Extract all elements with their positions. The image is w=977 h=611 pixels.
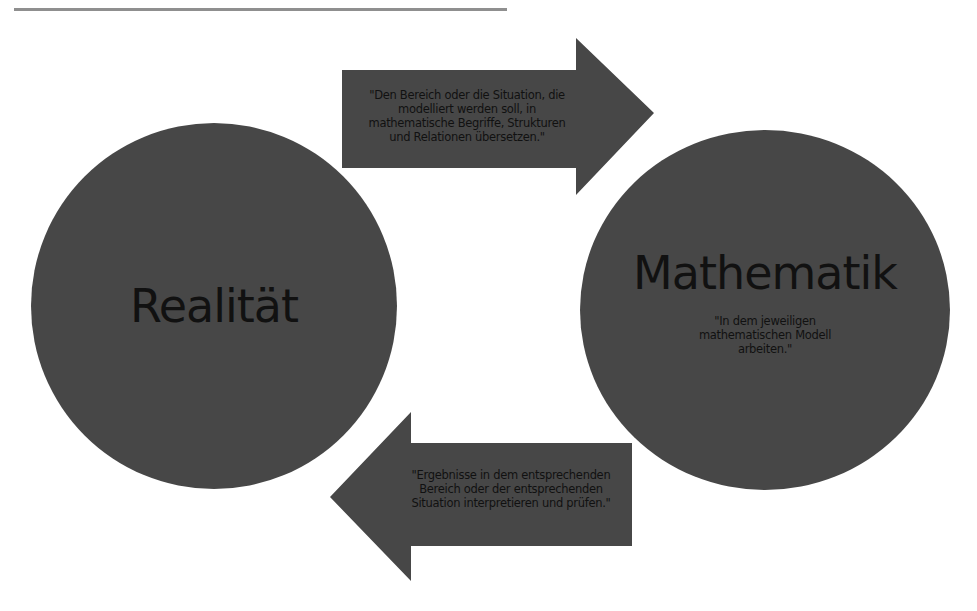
arrow-left-label: "Ergebnisse in dem entsprechenden Bereic… xyxy=(378,468,636,510)
arrow-right-label-line: und Relationen übersetzen." xyxy=(342,130,592,144)
realitaet-title-text: Realität xyxy=(130,279,298,333)
arrow-right-label: "Den Bereich oder die Situation, die mod… xyxy=(342,88,592,144)
mathematik-title: Mathematik xyxy=(580,250,950,296)
mathematik-description: "In dem jeweiligen mathematischen Modell… xyxy=(600,314,930,356)
arrow-right-label-line: mathematische Begriffe, Strukturen xyxy=(342,116,592,130)
mathematik-description-line: "In dem jeweiligen xyxy=(600,314,930,328)
realitaet-title: Realität xyxy=(31,283,397,329)
mathematik-description-line: arbeiten." xyxy=(600,342,930,356)
arrow-left-label-line: Bereich oder der entsprechenden xyxy=(378,482,636,496)
arrow-left-label-line: Situation interpretieren und prüfen." xyxy=(378,496,636,510)
arrow-left-label-line: "Ergebnisse in dem entsprechenden xyxy=(378,468,636,482)
mathematik-circle xyxy=(580,130,950,490)
mathematik-title-text: Mathematik xyxy=(633,246,897,300)
arrow-right-label-line: modelliert werden soll, in xyxy=(342,102,592,116)
arrow-right-label-line: "Den Bereich oder die Situation, die xyxy=(342,88,592,102)
mathematik-description-line: mathematischen Modell xyxy=(600,328,930,342)
